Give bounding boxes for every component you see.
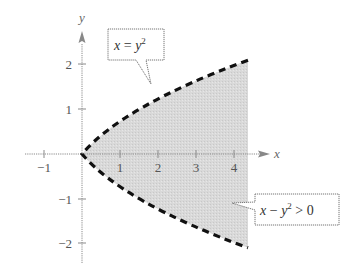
x-axis-arrow-icon bbox=[258, 151, 270, 158]
y-axis: y 2 1 −1 −2 bbox=[58, 10, 86, 264]
callout-curve-equation: x = y2 bbox=[108, 29, 164, 84]
callout-region-inequality: x − y2 > 0 bbox=[232, 194, 339, 225]
y-tick-label: 2 bbox=[66, 57, 73, 72]
x-tick-label: 1 bbox=[117, 160, 124, 175]
y-axis-label: y bbox=[77, 10, 85, 25]
svg-text:x = y2: x = y2 bbox=[113, 36, 146, 53]
inequality-graph: x −1 1 2 3 4 y 2 1 −1 −2 x = y2 bbox=[0, 0, 359, 272]
y-tick-label: 1 bbox=[66, 102, 73, 117]
y-tick-label: −1 bbox=[58, 192, 72, 207]
y-axis-arrow-icon bbox=[79, 31, 86, 43]
x-tick-label: 2 bbox=[155, 160, 162, 175]
x-tick-label: 4 bbox=[231, 160, 238, 175]
svg-text:x − y2 > 0: x − y2 > 0 bbox=[259, 201, 314, 218]
x-tick-label: 3 bbox=[193, 160, 200, 175]
x-axis-label: x bbox=[273, 146, 280, 161]
x-tick-label: −1 bbox=[37, 160, 51, 175]
y-tick-label: −2 bbox=[58, 236, 72, 251]
